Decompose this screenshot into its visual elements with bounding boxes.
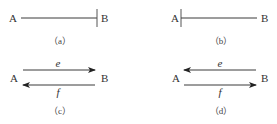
diagram-canvas: A B （a） A B （b） A e f B （c） A e f B （d） <box>0 0 277 124</box>
arrow-e-label: e <box>56 57 61 69</box>
point-b-label: B <box>261 72 268 84</box>
point-a-label: A <box>172 72 180 84</box>
point-a-label: A <box>171 12 179 24</box>
panel-a: A B （a） <box>9 9 108 46</box>
caption-b: （b） <box>210 36 233 46</box>
point-a-label: A <box>9 12 17 24</box>
arrow-f-label: f <box>218 86 223 98</box>
arrow-f-label: f <box>56 86 61 98</box>
caption-c: （c） <box>49 106 71 116</box>
point-a-label: A <box>10 72 18 84</box>
caption-d: （d） <box>210 106 233 116</box>
panel-b: A B （b） <box>171 9 268 46</box>
panel-d: A e f B （d） <box>172 57 268 116</box>
caption-a: （a） <box>49 36 71 46</box>
panel-c: A e f B （c） <box>10 57 108 116</box>
point-b-label: B <box>101 72 108 84</box>
point-b-label: B <box>101 12 108 24</box>
arrow-e-label: e <box>218 57 223 69</box>
point-b-label: B <box>261 12 268 24</box>
